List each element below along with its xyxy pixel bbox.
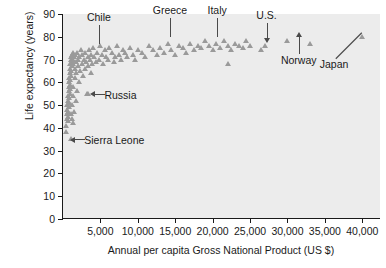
y-axis-tick: [58, 128, 63, 129]
y-axis-tick-label: 0: [49, 214, 55, 225]
x-axis-tick-label: 15,000: [159, 226, 191, 237]
y-axis-tick-label: 60: [43, 77, 55, 88]
x-axis-tick: [250, 218, 251, 223]
annotation-label-russia: Russia: [104, 90, 136, 101]
x-axis-title: Annual per capita Gross National Product…: [62, 245, 380, 257]
annotation-arrow-left-icon: [90, 91, 95, 97]
y-axis-tick-label: 40: [43, 123, 55, 134]
y-axis-tick-label: 80: [43, 32, 55, 43]
annotation-diagonal-leader: [63, 14, 380, 218]
y-axis-tick: [58, 60, 63, 61]
x-axis-tick: [362, 218, 363, 223]
plot-area: ChileGreeceItalyU.S.NorwayJapanRussiaSie…: [62, 14, 380, 219]
scatter-plot-figure: ChileGreeceItalyU.S.NorwayJapanRussiaSie…: [0, 0, 386, 268]
annotation-layer: ChileGreeceItalyU.S.NorwayJapanRussiaSie…: [63, 14, 380, 218]
y-axis-tick: [58, 105, 63, 106]
x-axis-tick: [287, 218, 288, 223]
x-axis-tick: [325, 218, 326, 223]
x-axis-tick-label: 5,000: [87, 226, 113, 237]
y-axis-tick-label: 20: [43, 168, 55, 179]
y-axis-tick: [58, 173, 63, 174]
x-axis-tick-label: 40,000: [346, 226, 378, 237]
annotation-label-sierra-leone: Sierra Leone: [84, 135, 144, 146]
y-axis-tick: [58, 14, 63, 15]
y-axis-tick-label: 30: [43, 145, 55, 156]
y-axis-tick: [58, 37, 63, 38]
y-axis-title: Life expectancy (years): [24, 0, 36, 156]
x-axis-tick-label: 10,000: [122, 226, 154, 237]
y-axis-tick-label: 50: [43, 100, 55, 111]
x-axis-tick: [213, 218, 214, 223]
annotation-arrow-left-icon: [70, 137, 75, 143]
x-axis-tick-label: 35,000: [309, 226, 341, 237]
y-axis-tick-label: 10: [43, 191, 55, 202]
x-axis-tick: [175, 218, 176, 223]
x-axis-tick: [100, 218, 101, 223]
y-axis-tick: [58, 196, 63, 197]
y-axis-tick-label: 70: [43, 54, 55, 65]
x-axis-tick-label: 20,000: [197, 226, 229, 237]
y-axis-tick: [58, 151, 63, 152]
x-axis-tick-label: 25,000: [234, 226, 266, 237]
annotation-label-japan: Japan: [320, 59, 349, 70]
x-axis-tick-label: 30,000: [271, 226, 303, 237]
x-axis-tick: [138, 218, 139, 223]
y-axis-tick: [58, 82, 63, 83]
y-axis-tick-label: 90: [43, 9, 55, 20]
y-axis-tick: [58, 219, 63, 220]
